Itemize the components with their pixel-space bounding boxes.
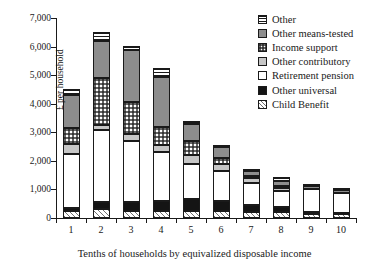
- bar-segment: [63, 208, 80, 211]
- bar-segment: [213, 145, 230, 148]
- y-tick: [51, 189, 56, 190]
- bar-segment: [153, 127, 170, 145]
- legend-item[interactable]: Other: [258, 12, 389, 26]
- x-tick: [296, 218, 297, 223]
- legend-swatch-icon: [258, 71, 267, 80]
- bar-segment: [183, 141, 200, 155]
- bar-segment: [243, 171, 260, 175]
- y-tick-label: 0: [5, 214, 51, 224]
- x-tick: [56, 218, 57, 223]
- legend-item-label: Child Benefit: [272, 99, 329, 110]
- bar-segment: [273, 207, 290, 212]
- bar-segment: [63, 128, 80, 144]
- bar-segment: [273, 212, 290, 218]
- bar-segment: [153, 145, 170, 152]
- bar-segment: [93, 209, 110, 218]
- bar-column: [123, 46, 140, 218]
- bar-segment: [213, 164, 230, 171]
- x-tick: [326, 218, 327, 223]
- bar-column: [303, 184, 320, 218]
- y-tick-label: 7,000: [5, 14, 51, 24]
- x-tick-label: 4: [148, 225, 174, 235]
- y-tick-label: 3,000: [5, 128, 51, 138]
- bar-segment: [93, 32, 110, 41]
- bar-segment: [123, 202, 140, 211]
- bar-column: [213, 145, 230, 218]
- bar-segment: [93, 202, 110, 209]
- bar-segment: [123, 46, 140, 51]
- y-tick-label: 1,000: [5, 185, 51, 195]
- legend-swatch-icon: [258, 57, 267, 66]
- bar-segment: [93, 78, 110, 125]
- bar-segment: [183, 121, 200, 124]
- bar-segment: [93, 130, 110, 202]
- bar-segment: [303, 212, 320, 214]
- y-tick-label: 5,000: [5, 71, 51, 81]
- bar-segment: [153, 211, 170, 218]
- legend-swatch-icon: [258, 86, 267, 95]
- x-tick-label: 7: [238, 225, 264, 235]
- bar-segment: [123, 50, 140, 102]
- bar-segment: [183, 155, 200, 164]
- legend-item-label: Other: [272, 14, 296, 25]
- bar-segment: [213, 158, 230, 164]
- y-tick-label: 6,000: [5, 42, 51, 52]
- bar-segment: [63, 89, 80, 96]
- bar-segment: [303, 214, 320, 218]
- legend-swatch-icon: [258, 43, 267, 52]
- stacked-bar-chart: 01,0002,0003,0004,0005,0006,0007,000 123…: [0, 0, 389, 273]
- legend-item-label: Other universal: [272, 85, 337, 96]
- bar-segment: [153, 201, 170, 211]
- bar-segment: [153, 77, 170, 128]
- y-tick: [51, 18, 56, 19]
- y-axis-line: [56, 18, 57, 218]
- bar-segment: [273, 188, 290, 191]
- bar-column: [63, 89, 80, 218]
- x-tick-label: 9: [298, 225, 324, 235]
- bar-segment: [273, 186, 290, 188]
- bar-segment: [183, 124, 200, 142]
- x-tick: [86, 218, 87, 223]
- bar-segment: [243, 176, 260, 178]
- legend-item[interactable]: Other contributory: [258, 55, 389, 69]
- y-tick: [51, 161, 56, 162]
- legend-swatch-icon: [258, 100, 267, 109]
- bar-segment: [273, 191, 290, 207]
- legend-item-label: Retirement pension: [272, 70, 354, 81]
- bar-segment: [183, 211, 200, 218]
- bar-column: [93, 32, 110, 218]
- legend-item[interactable]: Retirement pension: [258, 69, 389, 83]
- bar-column: [273, 177, 290, 218]
- x-tick: [176, 218, 177, 223]
- legend-item[interactable]: Other means-tested: [258, 26, 389, 40]
- legend-swatch-icon: [258, 29, 267, 38]
- bar-segment: [63, 95, 80, 127]
- legend-item-label: Income support: [272, 42, 338, 53]
- legend-item[interactable]: Other universal: [258, 83, 389, 97]
- bar-segment: [183, 199, 200, 211]
- x-axis-title: Tenths of households by equivalized disp…: [0, 248, 389, 259]
- x-tick: [116, 218, 117, 223]
- bar-segment: [123, 211, 140, 218]
- bar-segment: [123, 134, 140, 141]
- bar-column: [243, 169, 260, 218]
- y-tick: [51, 132, 56, 133]
- chart-legend: OtherOther means-testedIncome supportOth…: [258, 12, 389, 111]
- bar-column: [153, 68, 170, 218]
- bar-segment: [333, 193, 350, 213]
- legend-item[interactable]: Child Benefit: [258, 97, 389, 111]
- bar-segment: [273, 177, 290, 180]
- bar-segment: [333, 190, 350, 193]
- x-tick: [236, 218, 237, 223]
- legend-swatch-icon: [258, 15, 267, 24]
- bar-segment: [243, 183, 260, 205]
- x-tick-label: 8: [268, 225, 294, 235]
- bar-segment: [63, 211, 80, 218]
- bar-column: [183, 121, 200, 218]
- bar-segment: [93, 41, 110, 78]
- bar-segment: [333, 188, 350, 190]
- bar-segment: [213, 201, 230, 211]
- legend-item[interactable]: Income support: [258, 40, 389, 54]
- bar-segment: [273, 181, 290, 186]
- bar-segment: [93, 125, 110, 130]
